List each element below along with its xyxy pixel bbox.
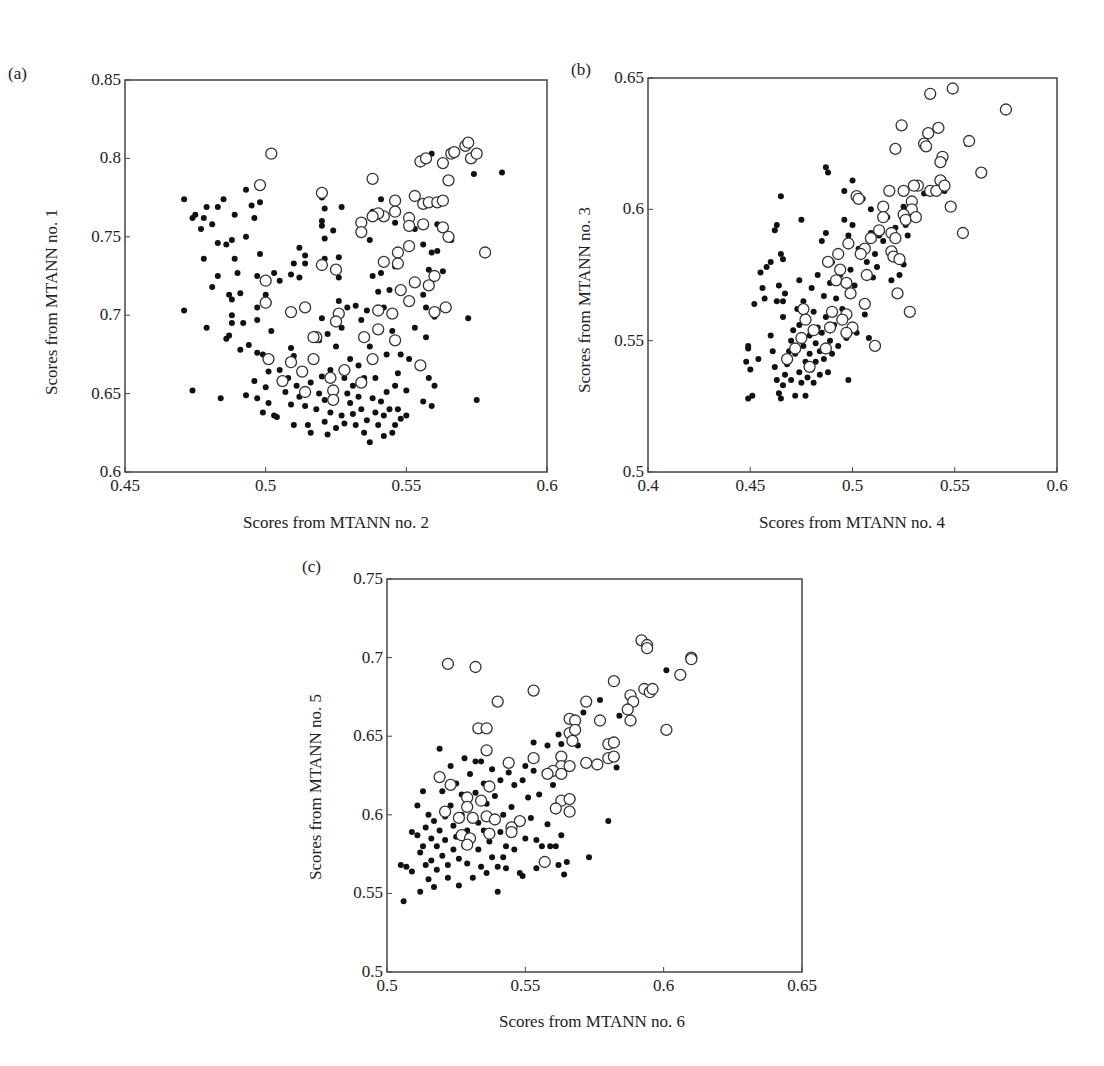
y-axis-label-a: Scores from MTANN no. 1 <box>42 209 62 395</box>
x-tick-label: 0.6 <box>536 476 557 496</box>
y-tick-label: 0.7 <box>362 648 387 668</box>
scatter-plot-a <box>125 80 547 472</box>
y-tick-label: 0.7 <box>100 305 125 325</box>
y-tick-label: 0.65 <box>614 68 648 88</box>
y-tick-label: 0.5 <box>362 962 387 982</box>
y-tick-label: 0.5 <box>623 462 648 482</box>
x-tick-label: 0.6 <box>653 976 674 996</box>
x-axis-label-b: Scores from MTANN no. 4 <box>759 513 945 533</box>
x-tick-label: 0.65 <box>787 976 817 996</box>
y-tick-label: 0.6 <box>100 462 125 482</box>
x-tick-label: 0.45 <box>735 476 765 496</box>
x-tick-label: 0.5 <box>255 476 276 496</box>
scatter-plot-b <box>648 78 1057 472</box>
x-tick-label: 0.55 <box>940 476 970 496</box>
filled-dot-series <box>181 151 505 446</box>
open-circle-series <box>255 137 491 405</box>
y-tick-label: 0.6 <box>362 805 387 825</box>
x-tick-label: 0.55 <box>391 476 421 496</box>
x-axis-label-a: Scores from MTANN no. 2 <box>243 513 429 533</box>
scatter-plot-c <box>387 579 802 972</box>
plot-frame <box>125 80 547 472</box>
y-tick-label: 0.75 <box>91 227 125 247</box>
y-tick-label: 0.65 <box>353 726 387 746</box>
y-tick-label: 0.6 <box>623 199 648 219</box>
y-axis-label-c: Scores from MTANN no. 5 <box>306 694 326 880</box>
x-axis-label-c: Scores from MTANN no. 6 <box>499 1012 685 1032</box>
y-tick-label: 0.55 <box>614 331 648 351</box>
plot-frame <box>387 579 802 972</box>
x-tick-label: 0.6 <box>1046 476 1067 496</box>
x-tick-label: 0.5 <box>842 476 863 496</box>
plot-frame <box>648 78 1057 472</box>
y-tick-label: 0.8 <box>100 148 125 168</box>
y-tick-label: 0.75 <box>353 569 387 589</box>
x-tick-label: 0.55 <box>510 976 540 996</box>
y-tick-label: 0.55 <box>353 883 387 903</box>
y-tick-label: 0.65 <box>91 384 125 404</box>
panel-label-a: (a) <box>8 64 27 84</box>
panel-label-b: (b) <box>571 60 591 80</box>
y-axis-label-b: Scores from MTANN no. 3 <box>575 207 595 393</box>
open-circle-series <box>434 635 697 868</box>
y-tick-label: 0.85 <box>91 70 125 90</box>
panel-label-c: (c) <box>302 557 321 577</box>
